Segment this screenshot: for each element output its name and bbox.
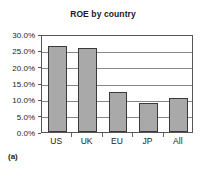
x-axis: USUKEUJPAll bbox=[41, 136, 193, 150]
y-tick-label: 5.0% bbox=[17, 112, 35, 121]
chart-title: ROE by country bbox=[0, 9, 206, 19]
y-tick-mark bbox=[38, 100, 41, 101]
x-tick-mark bbox=[71, 133, 72, 137]
x-tick-mark bbox=[102, 133, 103, 137]
y-tick-mark bbox=[38, 133, 41, 134]
bar-us[interactable] bbox=[48, 46, 67, 132]
y-tick-mark bbox=[38, 116, 41, 117]
bar-jp[interactable] bbox=[139, 103, 158, 132]
y-tick-label: 15.0% bbox=[12, 80, 35, 89]
x-tick-mark bbox=[163, 133, 164, 137]
x-tick-label-jp: JP bbox=[142, 136, 152, 146]
figure-caption: (a) bbox=[8, 152, 18, 161]
y-tick-label: 10.0% bbox=[12, 96, 35, 105]
y-tick-label: 25.0% bbox=[12, 47, 35, 56]
y-tick-mark bbox=[38, 51, 41, 52]
x-tick-label-us: US bbox=[50, 136, 62, 146]
bar-eu[interactable] bbox=[109, 92, 128, 133]
bar-uk[interactable] bbox=[78, 48, 97, 132]
y-tick-mark bbox=[38, 84, 41, 85]
chart-figure: ROE by country 0.0%5.0%10.0%15.0%20.0%25… bbox=[0, 0, 206, 178]
y-axis: 0.0%5.0%10.0%15.0%20.0%25.0%30.0% bbox=[0, 35, 38, 133]
x-tick-label-eu: EU bbox=[111, 136, 123, 146]
y-tick-mark bbox=[38, 67, 41, 68]
bar-all[interactable] bbox=[169, 98, 188, 132]
x-tick-mark bbox=[132, 133, 133, 137]
y-tick-label: 30.0% bbox=[12, 31, 35, 40]
x-tick-label-all: All bbox=[173, 136, 182, 146]
y-tick-label: 20.0% bbox=[12, 63, 35, 72]
plot-area bbox=[41, 35, 193, 133]
x-tick-label-uk: UK bbox=[81, 136, 93, 146]
y-tick-label: 0.0% bbox=[17, 129, 35, 138]
y-tick-mark bbox=[38, 35, 41, 36]
